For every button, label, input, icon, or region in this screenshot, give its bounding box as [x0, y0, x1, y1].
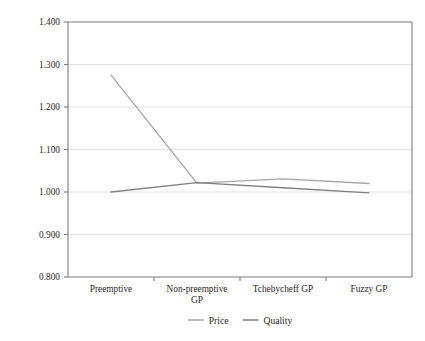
- y-tick-label: 0.900: [39, 230, 60, 240]
- y-tick-label: 0.800: [39, 272, 60, 282]
- line-chart: 1.4001.3001.2001.1001.0000.9000.800 Pree…: [0, 0, 425, 341]
- y-tick-label: 1.100: [39, 145, 60, 155]
- y-tick-label: 1.000: [39, 187, 60, 197]
- x-tick-label: Preemptive: [90, 284, 132, 294]
- x-tick-label: Tchebycheff GP: [253, 284, 313, 294]
- chart-canvas: 1.4001.3001.2001.1001.0000.9000.800 Pree…: [0, 0, 425, 341]
- x-tick-label: Fuzzy GP: [351, 284, 388, 294]
- legend-label-price: Price: [209, 315, 229, 326]
- y-tick-label: 1.300: [39, 60, 60, 70]
- y-tick-label: 1.200: [39, 102, 60, 112]
- y-tick-label: 1.400: [39, 17, 60, 27]
- legend-label-quality: Quality: [263, 315, 292, 326]
